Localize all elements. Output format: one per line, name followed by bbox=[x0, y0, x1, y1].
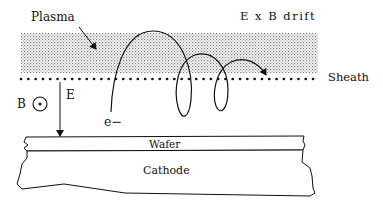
e-field-label: E bbox=[66, 88, 75, 102]
b-field-out-of-page-icon bbox=[33, 97, 47, 111]
cathode-label: Cathode bbox=[143, 164, 190, 177]
electron-label: e− bbox=[104, 114, 122, 129]
sheath-label: Sheath bbox=[328, 70, 370, 84]
b-field-label: B bbox=[17, 97, 26, 111]
wafer-label: Wafer bbox=[149, 138, 181, 150]
plasma-label: Plasma bbox=[31, 10, 75, 24]
plasma-region bbox=[21, 33, 318, 73]
exb-drift-diagram: Plasma E x B drift Sheath e− B E Wafer C… bbox=[0, 0, 383, 206]
exb-drift-label: E x B drift bbox=[240, 9, 316, 23]
